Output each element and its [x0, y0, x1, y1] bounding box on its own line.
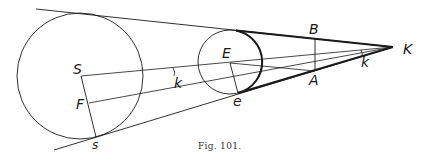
label-e: e	[233, 93, 242, 109]
label-K: K	[403, 41, 414, 57]
label-B: B	[309, 21, 319, 37]
radius-E-e	[230, 63, 238, 93]
label-k-left: k	[174, 75, 183, 91]
label-E: E	[222, 45, 231, 61]
figure-caption: Fig. 101.	[198, 141, 241, 151]
label-s: s	[92, 138, 98, 152]
line-E-A	[230, 63, 315, 71]
label-A: A	[308, 72, 319, 88]
label-S: S	[73, 61, 82, 77]
label-k-right: k	[361, 54, 370, 70]
eclipse-geometry-diagram: S F s k E e B A k K Fig. 101.	[0, 0, 430, 159]
label-F: F	[76, 96, 85, 112]
small-circle-thick-arc	[236, 31, 262, 94]
